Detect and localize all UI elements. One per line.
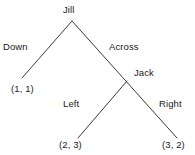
payoff-label-down: (1, 1) (11, 83, 34, 94)
payoff-label-left: (2, 3) (59, 139, 82, 150)
node-label-jill: Jill (63, 4, 74, 15)
edge-label-right: Right (159, 98, 182, 109)
payoff-label-right: (3, 2) (162, 139, 185, 150)
edge-line-down (22, 21, 72, 78)
edge-line-left (78, 81, 127, 138)
edge-line-across-right (72, 21, 177, 138)
edge-label-across: Across (109, 41, 139, 52)
edge-label-down: Down (3, 41, 28, 52)
game-tree-diagram: Jill Down Across Jack (1, 1) Left Right … (0, 0, 195, 155)
tree-edges-layer (0, 0, 195, 155)
edge-label-left: Left (63, 98, 79, 109)
node-label-jack: Jack (134, 67, 154, 78)
